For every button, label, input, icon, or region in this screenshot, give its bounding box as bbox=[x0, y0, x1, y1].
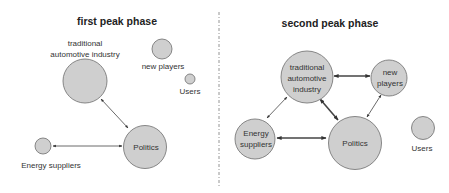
edge-tai-politics bbox=[320, 99, 338, 120]
node-new-players bbox=[371, 60, 407, 96]
node-energy-suppliers bbox=[35, 138, 51, 154]
node-users bbox=[412, 117, 435, 140]
edge-tai-energy bbox=[267, 97, 287, 118]
node-label-energy-line1: Energy bbox=[243, 129, 268, 138]
node-energy-suppliers bbox=[235, 119, 275, 159]
node-traditional-automotive-industry bbox=[63, 59, 107, 103]
node-label-tai-line2: automotive bbox=[287, 74, 327, 83]
node-label-energy-line2: suppliers bbox=[240, 140, 272, 149]
node-label-new-players: new players bbox=[142, 62, 185, 71]
node-label-tai-line3: industry bbox=[293, 85, 321, 94]
node-users bbox=[185, 74, 195, 84]
node-label-new-players-line1: new bbox=[383, 68, 398, 77]
node-label-politics: Politics bbox=[342, 139, 367, 148]
node-label-users: Users bbox=[180, 87, 201, 96]
node-label-tai-line1: traditional bbox=[290, 63, 325, 72]
panel-second-peak-phase: second peak phase traditional automotive… bbox=[235, 17, 435, 170]
node-label-tai-line1: traditional bbox=[68, 39, 103, 48]
node-label-new-players-line2: players bbox=[377, 79, 403, 88]
diagram-canvas: first peak phase traditional automotive … bbox=[0, 0, 449, 193]
panel-first-peak-phase: first peak phase traditional automotive … bbox=[21, 15, 200, 170]
node-label-tai-line2: automotive industry bbox=[50, 50, 119, 59]
panel-title: first peak phase bbox=[77, 15, 157, 27]
node-label-users: Users bbox=[412, 144, 433, 153]
node-new-players bbox=[152, 39, 172, 59]
edge-tai-politics bbox=[101, 99, 128, 128]
node-label-energy-suppliers: Energy suppliers bbox=[21, 161, 81, 170]
panel-title: second peak phase bbox=[282, 17, 379, 29]
edge-new-players-politics bbox=[367, 95, 381, 117]
node-label-politics: Politics bbox=[133, 143, 158, 152]
